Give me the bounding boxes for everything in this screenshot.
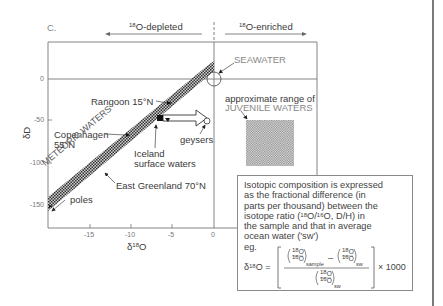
rangoon-label: Rangoon 15°N	[91, 96, 153, 107]
y-tick-label: -150	[30, 201, 44, 209]
y-axis-label: δD	[21, 127, 32, 139]
y-tick-label: 0	[40, 75, 44, 83]
num-ratio-2: 18O16O	[342, 248, 354, 262]
juvenile-label-2: JUVENILE WATERS	[225, 102, 313, 113]
num-ratio-1: 18O16O	[292, 248, 304, 262]
y-tick-label: -50	[34, 116, 44, 124]
header-depleted: 18O-depleted	[129, 21, 183, 32]
x-tick-label: -10	[125, 231, 135, 239]
x-tick-label: -5	[168, 231, 174, 239]
seawater-pointer	[219, 63, 234, 73]
x-axis-label: δ18O	[127, 241, 146, 252]
formula-box: Isotopic composition is expressed as the…	[237, 175, 413, 291]
sw-subscript-den: sw	[334, 281, 341, 291]
sw-subscript: sw	[356, 259, 363, 269]
sample-subscript: sample	[306, 259, 324, 269]
den-ratio: 18O16O	[320, 270, 332, 284]
x-tick-label: -15	[84, 231, 94, 239]
y-tick-label: -100	[30, 159, 44, 167]
juvenile-waters-region	[246, 120, 294, 166]
poles-label: poles	[70, 194, 93, 205]
seawater-label: SEAWATER	[234, 54, 286, 65]
enriched-arrow	[225, 32, 307, 36]
east-greenland-label: East Greenland 70°N	[116, 180, 206, 191]
minus-sign: –	[328, 253, 333, 263]
header-enriched: 18O-enriched	[239, 21, 293, 32]
iceland-label-2: surface waters	[134, 158, 196, 169]
x-tick-label: 0	[211, 231, 215, 239]
times-1000: × 1000	[378, 262, 406, 272]
depleted-arrow	[105, 32, 202, 36]
geysers-label: geysers	[180, 134, 213, 145]
geysers-point	[204, 118, 210, 124]
panel-label: C.	[47, 22, 57, 33]
